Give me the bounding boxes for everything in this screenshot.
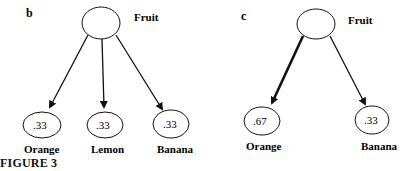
prob-banana: .33 bbox=[364, 114, 378, 126]
root-label-fruit: Fruit bbox=[348, 14, 373, 26]
root-node-fruit bbox=[82, 7, 120, 39]
edge-fruit-banana bbox=[330, 36, 365, 104]
panel-label-c: c bbox=[241, 9, 247, 23]
figure-caption: FIGURE 3 bbox=[0, 156, 57, 171]
label-orange: Orange bbox=[246, 140, 282, 152]
root-label-fruit: Fruit bbox=[134, 11, 159, 23]
prob-banana: .33 bbox=[163, 118, 177, 130]
edge-fruit-orange bbox=[50, 35, 88, 107]
prob-orange: .33 bbox=[33, 119, 47, 131]
panel-label-b: b bbox=[26, 6, 33, 20]
label-lemon: Lemon bbox=[91, 143, 124, 155]
edge-fruit-orange-emphasized bbox=[272, 36, 303, 103]
panel-b: b Fruit .33 Orange .33 Lemon .33 Banana bbox=[23, 6, 194, 155]
figure-canvas: b Fruit .33 Orange .33 Lemon .33 Banana … bbox=[0, 0, 404, 171]
edge-fruit-lemon bbox=[102, 39, 104, 107]
edge-fruit-banana bbox=[116, 35, 162, 109]
label-banana: Banana bbox=[157, 143, 194, 155]
panel-c: c Fruit .67 Orange .33 Banana bbox=[241, 9, 398, 152]
root-node-fruit bbox=[297, 9, 335, 39]
prob-lemon: .33 bbox=[96, 119, 110, 131]
label-orange: Orange bbox=[24, 143, 60, 155]
label-banana: Banana bbox=[361, 140, 398, 152]
prob-orange: .67 bbox=[253, 115, 267, 127]
